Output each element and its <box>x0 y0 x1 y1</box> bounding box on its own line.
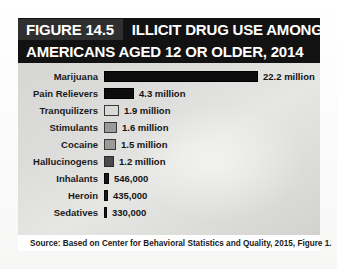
bar <box>104 71 258 82</box>
figure-title-line-2: AMERICANS AGED 12 OR OLDER, 2014 <box>26 43 303 60</box>
bar-track: 1.5 million <box>104 136 320 153</box>
bar-category-label: Hallucinogens <box>18 157 104 167</box>
figure-source-note: Source: Based on Center for Behavioral S… <box>30 239 332 248</box>
bar-track: 1.9 million <box>104 102 320 119</box>
bar-row: Cocaine1.5 million <box>18 136 320 153</box>
bar-value-label: 1.6 million <box>117 123 168 133</box>
figure-number: FIGURE 14.5 <box>26 21 114 38</box>
bar-value-label: 1.2 million <box>114 157 165 167</box>
bar-value-label: 22.2 million <box>258 72 315 82</box>
bar <box>104 122 117 133</box>
bar-chart: Marijuana22.2 millionPain Relievers4.3 m… <box>18 68 320 221</box>
bar-value-label: 1.5 million <box>116 140 167 150</box>
figure-card: FIGURE 14.5 ILLICIT DRUG USE AMONG AMERI… <box>18 18 320 251</box>
bar-category-label: Cocaine <box>18 140 104 150</box>
bar <box>104 88 134 99</box>
bar <box>104 156 114 167</box>
bar <box>104 139 116 150</box>
bar-value-label: 546,000 <box>109 174 148 184</box>
figure-source-area: Source: Based on Center for Behavioral S… <box>18 235 320 251</box>
bar-track: 330,000 <box>104 204 320 221</box>
bar-row: Tranquilizers1.9 million <box>18 102 320 119</box>
figure-number-block: FIGURE 14.5 <box>18 19 123 40</box>
figure-title-line-1: ILLICIT DRUG USE AMONG <box>123 21 320 38</box>
bar-category-label: Sedatives <box>18 208 104 218</box>
bar-value-label: 330,000 <box>107 208 146 218</box>
bar-track: 1.2 million <box>104 153 320 170</box>
bar-row: Stimulants1.6 million <box>18 119 320 136</box>
bar-track: 435,000 <box>104 187 320 204</box>
bar-value-label: 4.3 million <box>134 89 185 99</box>
figure-root: FIGURE 14.5 ILLICIT DRUG USE AMONG AMERI… <box>0 0 337 269</box>
bar-category-label: Tranquilizers <box>18 106 104 116</box>
bar-row: Heroin435,000 <box>18 187 320 204</box>
bar-category-label: Inhalants <box>18 174 104 184</box>
figure-header: FIGURE 14.5 ILLICIT DRUG USE AMONG AMERI… <box>18 18 320 63</box>
figure-header-line-2: AMERICANS AGED 12 OR OLDER, 2014 <box>26 40 303 62</box>
bar-category-label: Pain Relievers <box>18 89 104 99</box>
bar-category-label: Stimulants <box>18 123 104 133</box>
bar-row: Sedatives330,000 <box>18 204 320 221</box>
bar <box>104 105 119 116</box>
bar-track: 22.2 million <box>104 68 320 85</box>
bar-track: 546,000 <box>104 170 320 187</box>
bar-value-label: 435,000 <box>108 191 147 201</box>
bar-row: Marijuana22.2 million <box>18 68 320 85</box>
bar-category-label: Marijuana <box>18 72 104 82</box>
bar-value-label: 1.9 million <box>119 106 170 116</box>
bar-category-label: Heroin <box>18 191 104 201</box>
bar-track: 4.3 million <box>104 85 320 102</box>
bar-track: 1.6 million <box>104 119 320 136</box>
bar-row: Pain Relievers4.3 million <box>18 85 320 102</box>
chart-panel: Marijuana22.2 millionPain Relievers4.3 m… <box>18 63 320 235</box>
bar-row: Hallucinogens1.2 million <box>18 153 320 170</box>
bar-row: Inhalants546,000 <box>18 170 320 187</box>
figure-header-line-1: FIGURE 14.5 ILLICIT DRUG USE AMONG <box>18 19 320 40</box>
